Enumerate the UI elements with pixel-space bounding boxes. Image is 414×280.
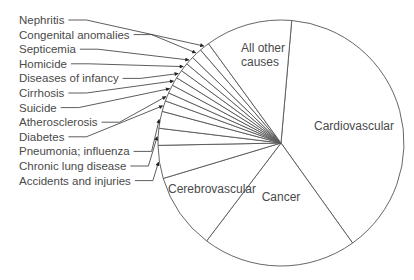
label-accidents-and-injuries: Accidents and injuries — [19, 175, 131, 187]
leader-line-suicide — [61, 89, 170, 108]
leader-line-homicide — [71, 64, 183, 67]
label-suicide: Suicide — [19, 102, 57, 114]
leader-line-atherosclerosis — [102, 97, 166, 123]
label-pneumonia-influenza: Pneumonia; influenza — [19, 145, 130, 157]
inside-label-cardiovascular: Cardiovascular — [314, 119, 394, 133]
label-septicemia: Septicemia — [19, 43, 76, 55]
leader-line-diseases-of-infancy — [123, 74, 179, 79]
inside-label-all-other-causes: causes — [241, 55, 279, 69]
inside-label-cancer: Cancer — [262, 190, 301, 204]
inside-label-all-other-causes: All other — [241, 41, 285, 55]
label-diabetes: Diabetes — [19, 131, 65, 143]
label-congenital-anomalies: Congenital anomalies — [19, 29, 130, 41]
inside-label-cerebrovascular: Cerebrovascular — [168, 182, 256, 196]
label-atherosclerosis: Atherosclerosis — [19, 116, 98, 128]
leader-line-septicemia — [80, 49, 189, 60]
pie-slices — [158, 20, 404, 266]
label-nephritis: Nephritis — [19, 14, 65, 26]
pie-chart: NephritisCongenital anomaliesSepticemiaH… — [0, 0, 414, 280]
label-homicide: Homicide — [19, 58, 67, 70]
label-diseases-of-infancy: Diseases of infancy — [19, 72, 119, 84]
leader-line-pneumonia-influenza — [134, 120, 160, 152]
leader-line-accidents-and-injuries — [135, 162, 159, 180]
label-cirrhosis: Cirrhosis — [19, 87, 65, 99]
label-chronic-lung-disease: Chronic lung disease — [19, 160, 126, 172]
